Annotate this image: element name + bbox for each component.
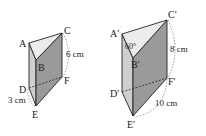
- left-base-label: 3 cm: [8, 95, 26, 105]
- vertex-label-E-prime: E′: [127, 119, 135, 130]
- prism-diagram: A B C D E F 6 cm 3 cm A′ B′ C′ D′ E′ F′ …: [0, 0, 206, 136]
- vertex-label-D: D: [19, 84, 26, 95]
- right-height-label: 8 cm: [170, 44, 188, 54]
- vertex-label-B-prime: B′: [131, 59, 140, 70]
- vertex-label-D-prime: D′: [110, 88, 119, 99]
- left-height-label: 6 cm: [66, 49, 84, 59]
- vertex-label-A-prime: A′: [110, 28, 119, 39]
- right-base-label: 10 cm: [155, 98, 177, 108]
- angle-label: 60°: [125, 42, 136, 51]
- vertex-label-E: E: [32, 109, 38, 120]
- vertex-label-C-prime: C′: [168, 9, 177, 20]
- left-prism: A B C D E F 6 cm 3 cm: [8, 25, 84, 120]
- vertex-label-F: F: [64, 75, 70, 86]
- vertex-label-F-prime: F′: [168, 76, 176, 87]
- vertex-label-C: C: [64, 25, 71, 36]
- vertex-label-B: B: [38, 62, 45, 73]
- right-prism: A′ B′ C′ D′ E′ F′ 60° 8 cm 10 cm: [110, 9, 188, 130]
- vertex-label-A: A: [19, 38, 27, 49]
